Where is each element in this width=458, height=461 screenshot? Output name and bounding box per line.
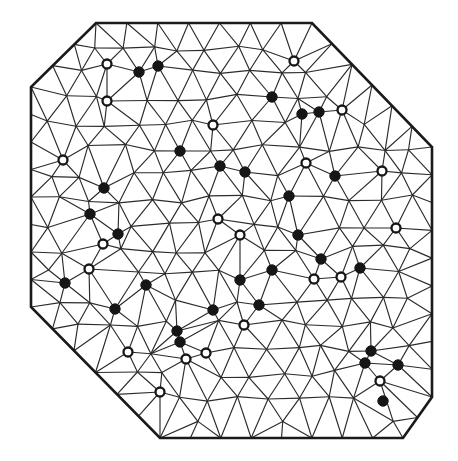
mesh-edge (213, 120, 252, 125)
mesh-edge (412, 175, 432, 195)
mesh-edge (147, 101, 165, 125)
mesh-edge (410, 249, 432, 258)
mesh-edge (158, 23, 177, 51)
mesh-edge (153, 200, 170, 223)
mesh-edge (339, 201, 348, 228)
mesh-edge (267, 320, 282, 349)
mesh-edge (237, 70, 250, 94)
open-node-marker (290, 57, 299, 66)
mesh-edge (282, 421, 283, 438)
mesh-edge (213, 94, 237, 125)
mesh-edge (186, 359, 207, 401)
mesh-edge (219, 23, 238, 46)
open-node-marker (209, 121, 218, 130)
mesh-edge (282, 73, 298, 99)
mesh-edge (53, 303, 60, 329)
open-node-marker (103, 97, 112, 106)
mesh-edge (137, 372, 161, 373)
mesh-edge (90, 303, 111, 325)
filled-node-marker (316, 254, 326, 264)
open-node-marker (182, 355, 191, 364)
mesh-edge (209, 195, 242, 196)
mesh-edge (371, 346, 409, 351)
mesh-edge (180, 320, 219, 342)
mesh-edge (393, 421, 403, 438)
open-node-marker (378, 167, 387, 176)
mesh-edge (206, 73, 220, 99)
mesh-edge (268, 398, 299, 399)
mesh-edge (182, 170, 191, 202)
open-node-marker (85, 265, 94, 274)
mesh-edge (329, 110, 342, 151)
mesh-edge (381, 173, 401, 200)
mesh-edge (180, 397, 198, 421)
mesh-edge (160, 421, 198, 438)
mesh-edge (165, 253, 176, 274)
mesh-edge (31, 170, 52, 177)
mesh-edge (31, 270, 49, 280)
mesh-edge (52, 177, 60, 197)
mesh-edge (48, 228, 62, 254)
mesh-edge (399, 271, 408, 298)
mesh-edge (262, 122, 285, 144)
mesh-edge (410, 230, 432, 248)
mesh-edge (237, 94, 252, 120)
mesh-edge (299, 345, 320, 347)
mesh-edge (126, 145, 134, 173)
mesh-edge (250, 70, 282, 73)
filled-node-marker (153, 61, 163, 71)
mesh-edge (96, 352, 129, 373)
mesh-edge (262, 145, 277, 176)
mesh-edge (204, 23, 219, 50)
mesh-edge (138, 272, 164, 274)
mesh-edge (285, 348, 300, 374)
mesh-edge (385, 151, 401, 173)
filled-node-marker (366, 346, 376, 356)
mesh-edge (233, 120, 252, 149)
filled-node-marker (235, 275, 245, 285)
open-node-marker (124, 348, 133, 357)
filled-node-marker (393, 360, 403, 370)
filled-node-marker (240, 167, 250, 177)
mesh-edge (300, 376, 313, 398)
mesh-edge (170, 203, 182, 223)
mesh-edge (88, 126, 104, 145)
mesh-edge (180, 397, 208, 401)
filled-node-marker (60, 278, 70, 288)
mesh-edge (189, 23, 204, 50)
mesh-edge (74, 44, 81, 70)
mesh-edge (155, 47, 177, 51)
mesh-edge (89, 202, 119, 203)
open-node-marker (240, 321, 249, 330)
mesh-edge (298, 228, 339, 235)
mesh-edge (271, 176, 278, 201)
mesh-edge (180, 359, 187, 397)
mesh-edge (285, 374, 300, 398)
mesh-edge (383, 245, 410, 249)
mesh-edge (52, 177, 79, 178)
mesh-edge (283, 398, 300, 421)
mesh-edge (385, 106, 392, 151)
filled-node-marker (172, 326, 182, 336)
mesh-edge (358, 124, 364, 146)
mesh-edge (329, 147, 358, 151)
filled-node-marker (141, 280, 151, 290)
mesh-edge (121, 249, 139, 272)
mesh-edge (166, 101, 178, 125)
mesh-edge (126, 145, 155, 151)
mesh-edge (234, 348, 267, 350)
mesh-edge (53, 66, 67, 96)
mesh-edge (320, 345, 348, 351)
mesh-edge (154, 151, 163, 173)
mesh-edge (335, 171, 382, 176)
mesh-edge (221, 348, 234, 378)
mesh-edge (312, 397, 329, 438)
mesh-edge (170, 223, 199, 224)
mesh-edge (166, 120, 193, 124)
mesh-edge (393, 328, 409, 346)
mesh-edge (178, 100, 206, 101)
mesh-edge (364, 106, 392, 125)
mesh-edge (364, 124, 385, 150)
mesh-edge (385, 150, 408, 151)
mesh-edge (249, 377, 268, 399)
